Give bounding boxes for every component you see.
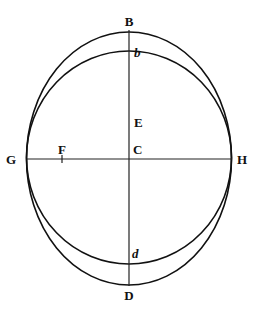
label-D: D xyxy=(124,288,133,303)
label-G: G xyxy=(6,152,16,167)
label-E: E xyxy=(134,115,143,130)
label-H: H xyxy=(237,152,247,167)
label-b: b xyxy=(134,45,141,60)
label-C: C xyxy=(133,142,142,157)
ellipse-diagram: B b E C F G H d D xyxy=(0,0,258,310)
label-B: B xyxy=(125,14,134,29)
label-F: F xyxy=(58,142,66,157)
label-d: d xyxy=(132,246,139,261)
